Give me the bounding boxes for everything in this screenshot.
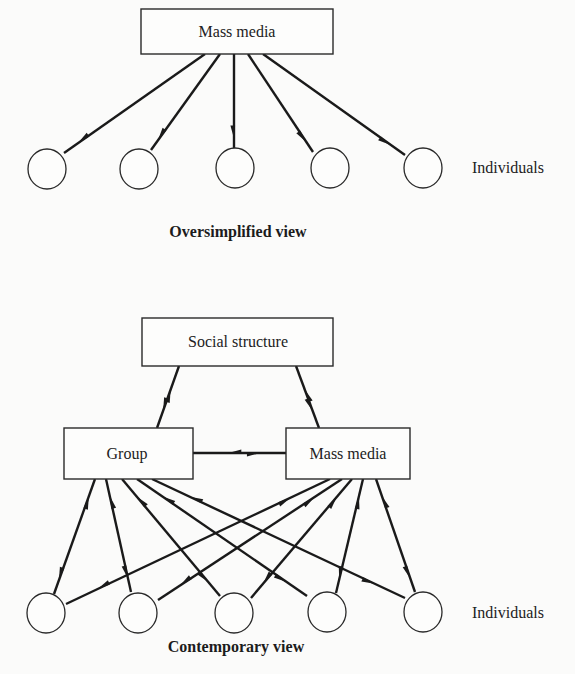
arrowhead-icon (355, 496, 360, 509)
arrowhead-icon (190, 497, 203, 504)
individual-node-1 (28, 149, 66, 189)
arrowhead-icon (83, 496, 88, 509)
individual-node-1 (27, 593, 65, 633)
individuals-row (28, 148, 442, 189)
individual-node-2 (119, 593, 157, 633)
contemporary-view-diagram: Social structure Group Mass media Indivi… (27, 318, 544, 656)
contemporary-caption: Contemporary view (168, 638, 305, 656)
arrowhead-icon (78, 133, 89, 143)
individual-node-2 (120, 149, 158, 189)
individual-node-5 (404, 148, 442, 188)
arrowhead-icon (361, 577, 374, 584)
edges (54, 366, 415, 604)
arrowhead-icon (59, 567, 64, 580)
edges (64, 54, 405, 155)
arrowhead-icon (339, 566, 344, 579)
arrowhead-icon (158, 128, 166, 141)
individual-node-3 (215, 593, 253, 633)
individual-node-3 (216, 148, 254, 188)
arrowhead-icon (137, 497, 148, 508)
mass-media-label: Mass media (310, 445, 387, 462)
arrowhead-icon (110, 496, 116, 509)
individual-node-4 (308, 592, 346, 632)
individuals-row (27, 592, 442, 633)
group-label: Group (107, 445, 148, 463)
arrowhead-icon (274, 574, 287, 582)
arrowhead-icon (278, 498, 290, 507)
arrowhead-icon (165, 390, 170, 403)
mass-media-label: Mass media (199, 23, 276, 40)
arrowhead-icon (98, 580, 110, 589)
individual-node-5 (404, 592, 442, 632)
individual-node-4 (311, 148, 349, 188)
individuals-label: Individuals (472, 159, 544, 176)
individuals-label: Individuals (472, 604, 544, 621)
oversimplified-caption: Oversimplified view (169, 223, 307, 241)
arrowhead-icon (163, 497, 176, 505)
social-structure-label: Social structure (188, 333, 288, 350)
diagram-canvas: Mass media Individuals Oversimplified vi… (0, 0, 575, 674)
oversimplified-view-diagram: Mass media Individuals Oversimplified vi… (28, 9, 544, 241)
arrowhead-icon (378, 136, 391, 144)
